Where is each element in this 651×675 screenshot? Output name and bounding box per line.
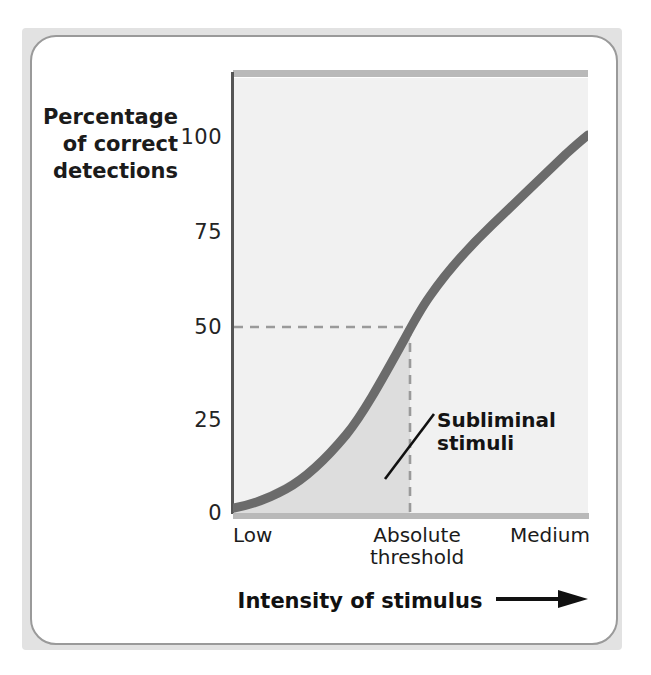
annotation-subliminal-stimuli: Subliminal stimuli <box>437 409 556 455</box>
plot-top-rule <box>233 70 588 77</box>
y-axis-title-line3: detections <box>53 159 178 183</box>
x-axis-line <box>233 513 589 519</box>
x-tick-low: Low <box>233 524 272 546</box>
right-arrow-icon <box>496 588 588 614</box>
x-axis-title: Intensity of stimulus <box>238 589 483 613</box>
x-tick-medium: Medium <box>510 524 590 546</box>
x-tick-absolute-threshold-line1: Absolute <box>373 523 460 547</box>
x-tick-absolute-threshold-line2: threshold <box>370 545 464 569</box>
annotation-line1: Subliminal <box>437 408 556 432</box>
y-axis-line <box>231 72 234 514</box>
x-tick-absolute-threshold: Absolute threshold <box>370 524 464 569</box>
annotation-line2: stimuli <box>437 431 514 455</box>
chart-stage: Percentage of correct detections 100 75 … <box>0 0 651 675</box>
figure-root: Percentage of correct detections 100 75 … <box>0 0 651 675</box>
x-axis-title-row: Intensity of stimulus <box>233 588 593 614</box>
